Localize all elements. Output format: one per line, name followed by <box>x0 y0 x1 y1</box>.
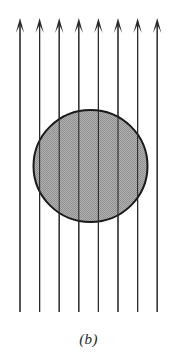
figure-container: (b) <box>0 0 177 364</box>
figure-caption: (b) <box>0 330 177 348</box>
figure-svg <box>0 0 177 364</box>
shaded-circle-region <box>34 110 148 222</box>
